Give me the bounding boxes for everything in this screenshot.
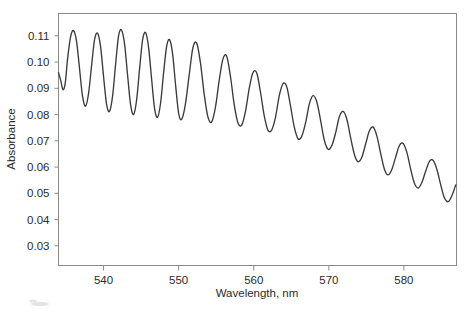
x-tick-label: 580 [394,274,413,286]
y-axis-label: Absorbance [5,108,17,169]
scan-artifact-smudge-2 [29,299,37,302]
x-tick-label: 570 [319,274,338,286]
x-tick-label: 560 [244,274,263,286]
y-tick-label: 0.03 [27,240,49,252]
x-tick-label: 540 [94,274,113,286]
y-tick-label: 0.09 [27,82,49,94]
y-tick-label: 0.08 [27,109,49,121]
y-tick-label: 0.04 [27,214,50,226]
y-tick-label: 0.07 [27,135,49,147]
y-tick-label: 0.11 [28,30,50,42]
y-tick-label: 0.06 [27,161,49,173]
y-tick-label: 0.05 [27,187,49,199]
chart-canvas: 0.030.040.050.060.070.080.090.100.11 540… [0,0,471,312]
x-axis-label: Wavelength, nm [216,287,299,299]
absorbance-spectrum-figure: 0.030.040.050.060.070.080.090.100.11 540… [0,0,471,312]
y-tick-label: 0.10 [27,56,49,68]
x-tick-label: 550 [169,274,188,286]
